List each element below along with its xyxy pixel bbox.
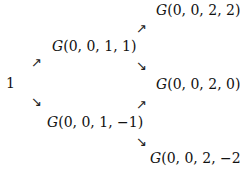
- arrow-down-icon: ↘: [136, 59, 147, 72]
- arrow-up-icon: ↗: [136, 22, 147, 35]
- node-g-0-0-1-1: G(0, 0, 1, 1): [52, 38, 136, 54]
- arrow-down-icon: ↘: [31, 95, 42, 108]
- node-g-0-0-2-2: G(0, 0, 2, 2): [156, 2, 240, 18]
- arrow-down-icon: ↘: [136, 135, 147, 148]
- root-node: 1: [6, 75, 15, 91]
- arrow-up-icon: ↗: [31, 56, 42, 69]
- node-g-0-0-1-m1: G(0, 0, 1, −1): [47, 114, 143, 130]
- arrow-up-icon: ↗: [136, 98, 147, 111]
- node-g-0-0-2-0: G(0, 0, 2, 0): [156, 76, 240, 92]
- node-g-0-0-2-m2: G(0, 0, 2, −2): [150, 150, 240, 166]
